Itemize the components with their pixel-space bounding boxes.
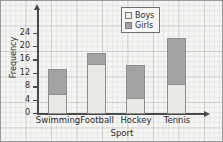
bar-hockey	[126, 65, 145, 113]
y-tick-12	[33, 73, 38, 74]
bar-segment-girls-tennis	[167, 38, 186, 85]
legend-item-girls: Girls	[125, 20, 154, 30]
y-tick-16	[33, 59, 38, 60]
y-tick-label-8: 8	[25, 82, 30, 90]
y-tick-8	[33, 86, 38, 87]
legend-swatch-boys-icon	[125, 12, 132, 19]
y-tick-label-12: 12	[20, 69, 30, 77]
bar-segment-boys-football	[87, 64, 106, 114]
y-tick-label-24: 24	[20, 29, 30, 37]
bar-segment-boys-swimming	[48, 94, 67, 114]
x-category-label-tennis: Tennis	[158, 115, 196, 125]
bar-segment-girls-swimming	[48, 69, 67, 96]
y-tick-label-4: 4	[25, 96, 30, 104]
y-tick-label-20: 20	[20, 42, 30, 50]
y-tick-label-16: 16	[20, 55, 30, 63]
bar-segment-boys-tennis	[167, 84, 186, 114]
bar-swimming	[48, 69, 67, 114]
stacked-bar-chart: 0 4 8 12 16 20 24 Frequency Sport	[0, 0, 223, 142]
y-axis-title: Frequency	[9, 30, 18, 86]
plot-area: 0 4 8 12 16 20 24 Frequency Sport	[1, 1, 223, 142]
legend-label-girls: Girls	[135, 21, 153, 30]
y-tick-20	[33, 46, 38, 47]
x-axis-arrow-icon	[204, 111, 210, 117]
x-category-label-hockey: Hockey	[116, 115, 156, 125]
bar-segment-boys-hockey	[126, 98, 145, 115]
y-tick-label-0: 0	[25, 109, 30, 117]
legend: Boys Girls	[121, 7, 160, 33]
y-tick-24	[33, 33, 38, 34]
y-axis-arrow-icon	[34, 4, 40, 10]
y-axis-line	[37, 9, 39, 114]
bar-football	[87, 53, 106, 113]
bar-tennis	[167, 38, 186, 113]
legend-swatch-girls-icon	[125, 22, 132, 29]
y-tick-4	[33, 100, 38, 101]
legend-item-boys: Boys	[125, 10, 154, 20]
x-category-label-football: Football	[76, 115, 118, 125]
legend-label-boys: Boys	[135, 11, 154, 20]
x-category-label-swimming: Swimming	[34, 115, 82, 125]
x-axis-title: Sport	[37, 128, 207, 138]
bar-segment-girls-hockey	[126, 65, 145, 99]
